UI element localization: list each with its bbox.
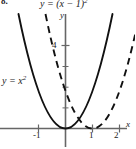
curves-group (19, 14, 136, 129)
plot-canvas (0, 0, 135, 149)
parabola-figure: 8. y = (x − 1)2 y = x2 y x -1 1 2 4 (0, 0, 135, 149)
dashed-parabola-curve (46, 14, 136, 129)
